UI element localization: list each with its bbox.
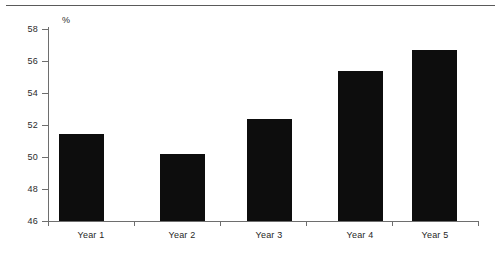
bar-year-1 (59, 134, 104, 221)
x-tick-mark (478, 221, 479, 226)
y-tick-label: 50 (14, 152, 38, 162)
y-tick-label: 56 (14, 56, 38, 66)
y-tick-label: 48 (14, 184, 38, 194)
y-tick-label: 54 (14, 88, 38, 98)
bar-year-4 (338, 71, 383, 221)
y-tick-mark (42, 29, 48, 30)
x-axis-label-year-3: Year 3 (224, 230, 314, 240)
scan-artifact-band (0, 243, 501, 255)
x-tick-mark (306, 221, 307, 226)
y-tick-label: 58 (14, 24, 38, 34)
x-axis-label-year-1: Year 1 (46, 230, 136, 240)
y-tick-mark (42, 157, 48, 158)
x-tick-mark (48, 221, 49, 226)
x-tick-mark (392, 221, 393, 226)
bar-year-3 (247, 119, 292, 221)
y-tick-label: 52 (14, 120, 38, 130)
y-tick-mark (42, 93, 48, 94)
x-tick-mark (134, 221, 135, 226)
y-tick-mark (42, 61, 48, 62)
x-tick-mark (220, 221, 221, 226)
y-tick-label: 46 (14, 216, 38, 226)
y-tick-mark (42, 125, 48, 126)
y-axis-unit-label: % (62, 15, 70, 25)
bar-chart-figure: % 46 48 50 52 54 56 58 Year 1 Year 2 Yea… (0, 0, 501, 255)
x-axis-label-year-2: Year 2 (137, 230, 227, 240)
bar-year-5 (412, 50, 457, 221)
x-axis-line (48, 221, 478, 222)
y-tick-mark (42, 189, 48, 190)
top-divider-rule (6, 5, 495, 6)
x-axis-label-year-5: Year 5 (390, 230, 480, 240)
bar-year-2 (160, 154, 205, 221)
y-axis-line (48, 27, 49, 222)
